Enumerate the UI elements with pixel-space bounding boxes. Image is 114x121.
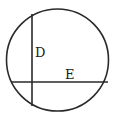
circle-diagram: D E: [0, 0, 114, 121]
circle-outline: [7, 9, 109, 111]
label-d: D: [35, 45, 45, 60]
label-e: E: [65, 67, 75, 82]
